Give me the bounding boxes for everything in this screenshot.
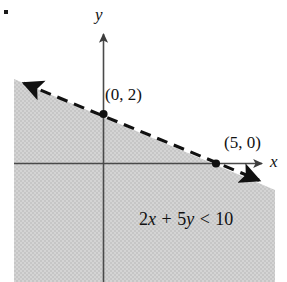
inequality-relation: < [199, 209, 211, 229]
inequality-constant: 10 [215, 209, 233, 229]
point-label-x-intercept: (5, 0) [224, 134, 261, 151]
point-label-y-intercept: (0, 2) [105, 86, 142, 103]
inequality-graph-figure: y x (0, 2) (5, 0) 2x + 5y < 10 [0, 0, 287, 282]
point-marker-y-intercept [99, 110, 107, 118]
x-axis-label: x [270, 153, 278, 170]
inequality-coef-x: 2 [139, 209, 148, 229]
inequality-var-x: x [148, 209, 156, 229]
y-axis-label: y [95, 6, 103, 23]
point-marker-x-intercept [212, 159, 220, 167]
inequality-plus: + [161, 209, 173, 229]
shaded-solution-region [14, 79, 275, 282]
inequality-annotation: 2x + 5y < 10 [139, 210, 233, 228]
inequality-coef-y: 5 [177, 209, 186, 229]
inequality-var-y: y [186, 209, 194, 229]
